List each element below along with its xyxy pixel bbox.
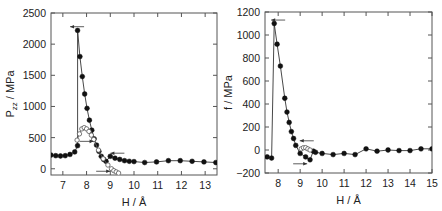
data-point-filled [132, 159, 137, 164]
data-point-filled [108, 154, 113, 159]
data-point-filled [178, 158, 183, 163]
data-point-filled [190, 159, 195, 164]
y-tick-label: 400 [242, 98, 260, 110]
plot-frame [265, 12, 432, 173]
y-tick-label: −200 [236, 167, 260, 179]
x-tick-label: 13 [382, 177, 394, 189]
x-tick-label: 7 [60, 179, 66, 191]
y-tick-label: 1500 [23, 69, 47, 81]
data-point-filled [75, 28, 80, 33]
arrow-right-icon [303, 162, 307, 166]
y-tick-label: 2500 [23, 7, 47, 19]
data-point-filled [75, 143, 80, 148]
x-axis-label: H / Å [336, 194, 361, 206]
data-point-open [89, 133, 93, 137]
x-axis-label: H / Å [122, 196, 147, 208]
data-point-filled [397, 148, 402, 153]
x-tick-label: 9 [107, 179, 113, 191]
x-tick-label: 11 [152, 179, 163, 191]
data-point-filled [320, 151, 325, 156]
chart-pzz: 7891011121305001000150020002500H / ÅPzz … [4, 7, 218, 208]
data-point-open [96, 148, 100, 152]
chart-f: 89101112131415−200020040060080010001200H… [222, 6, 438, 206]
data-point-filled [85, 106, 90, 111]
data-point-filled [63, 153, 68, 158]
x-tick-label: 14 [404, 177, 416, 189]
data-point-filled [342, 151, 347, 156]
series-line [51, 30, 216, 162]
data-point-open [75, 138, 79, 142]
arrow-left-icon [70, 25, 74, 29]
data-point-filled [82, 92, 87, 97]
data-point-open [308, 148, 312, 152]
data-point-filled [303, 155, 308, 160]
data-point-filled [298, 151, 303, 156]
data-point-filled [293, 143, 298, 148]
y-axis-label: Pzz / MPa [4, 70, 19, 118]
data-point-filled [313, 150, 318, 155]
y-tick-label: 0 [40, 163, 46, 175]
data-point-filled [72, 150, 77, 155]
y-tick-label: 1000 [237, 29, 261, 41]
data-point-filled [308, 157, 313, 162]
data-point-filled [265, 155, 270, 160]
y-tick-label: 2000 [23, 38, 47, 50]
y-tick-label: 500 [28, 132, 46, 144]
data-point-filled [166, 158, 171, 163]
data-point-filled [375, 149, 380, 154]
data-point-filled [113, 156, 118, 161]
data-point-filled [364, 146, 369, 151]
data-point-open [106, 163, 110, 167]
data-point-filled [269, 156, 274, 161]
x-tick-label: 12 [176, 179, 188, 191]
data-point-filled [291, 136, 296, 141]
data-point-filled [430, 146, 435, 151]
data-point-filled [142, 160, 147, 165]
data-point-open [77, 132, 81, 136]
data-point-filled [386, 148, 391, 153]
y-tick-label: 0 [254, 144, 260, 156]
arrow-left-icon [300, 139, 304, 143]
data-point-filled [87, 118, 92, 123]
data-point-filled [78, 54, 83, 59]
x-tick-label: 11 [339, 177, 350, 189]
data-point-filled [272, 21, 277, 26]
data-point-filled [287, 120, 292, 125]
data-point-filled [408, 148, 413, 153]
x-tick-label: 8 [275, 177, 281, 189]
x-tick-label: 12 [360, 177, 372, 189]
x-tick-label: 13 [199, 179, 211, 191]
data-point-filled [58, 154, 63, 159]
data-point-filled [117, 157, 122, 162]
data-point-filled [419, 146, 424, 151]
data-point-filled [202, 160, 207, 165]
data-point-open [101, 157, 105, 161]
figure: 7891011121305001000150020002500H / ÅPzz … [0, 0, 442, 211]
y-axis-label: f / MPa [222, 74, 234, 110]
data-point-filled [122, 158, 127, 163]
x-tick-label: 10 [316, 177, 328, 189]
data-point-filled [331, 152, 336, 157]
data-point-filled [154, 160, 159, 165]
data-point-filled [289, 129, 294, 134]
data-point-filled [275, 42, 280, 47]
data-point-filled [49, 153, 54, 158]
x-tick-label: 10 [128, 179, 140, 191]
data-point-filled [68, 152, 73, 157]
data-point-filled [285, 110, 290, 115]
y-tick-label: 200 [242, 121, 260, 133]
data-point-filled [53, 153, 58, 158]
data-point-filled [127, 159, 132, 164]
data-point-filled [278, 64, 283, 69]
y-tick-label: 600 [242, 75, 260, 87]
x-tick-label: 15 [426, 177, 438, 189]
x-tick-label: 9 [297, 177, 303, 189]
data-point-open [116, 171, 120, 175]
y-tick-label: 1000 [23, 100, 47, 112]
y-tick-label: 1200 [237, 6, 261, 18]
data-point-filled [80, 74, 85, 79]
x-tick-label: 8 [84, 179, 90, 191]
data-point-filled [282, 96, 287, 101]
data-point-filled [353, 152, 358, 157]
y-tick-label: 800 [242, 52, 260, 64]
